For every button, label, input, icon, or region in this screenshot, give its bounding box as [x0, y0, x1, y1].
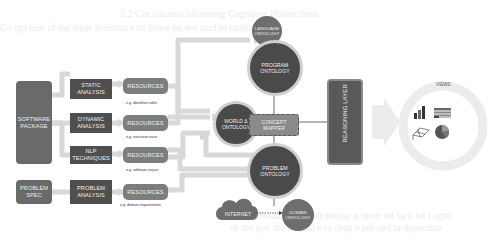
- views-icons: [0, 0, 491, 241]
- bar-chart-icon: [414, 106, 425, 119]
- pie-chart-icon: [435, 125, 449, 139]
- table-icon: [434, 108, 451, 118]
- 3d-plot-icon: [413, 128, 429, 140]
